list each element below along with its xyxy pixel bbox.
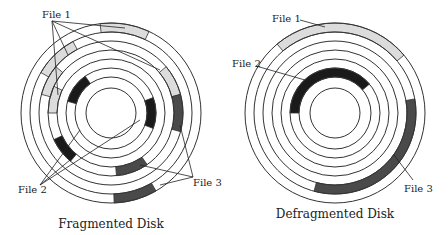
defragmented-caption: Defragmented Disk — [276, 207, 395, 221]
track-ring — [310, 88, 360, 138]
diagram-canvas: File 1File 2File 3Fragmented DiskFile 1F… — [0, 0, 448, 235]
track-ring — [263, 41, 407, 185]
file-label: File 1 — [42, 9, 71, 20]
track-ring — [39, 41, 183, 185]
leader-line — [394, 155, 413, 180]
leader-line — [256, 66, 305, 80]
track-ring — [290, 68, 380, 158]
track-ring — [86, 88, 136, 138]
fragmented-disk: File 1File 2File 3Fragmented Disk — [18, 9, 222, 231]
file-label: File 3 — [404, 183, 433, 194]
file-label: File 2 — [232, 58, 261, 69]
leader-line — [40, 120, 140, 185]
file1-segment — [100, 23, 149, 40]
leader-line — [160, 177, 193, 185]
fragmented-caption: Fragmented Disk — [58, 217, 164, 231]
defragmented-disk: File 1File 2File 3Defragmented Disk — [232, 13, 433, 221]
file-label: File 2 — [18, 184, 47, 195]
leader-line — [180, 125, 193, 177]
disk-fragmentation-diagram: File 1File 2File 3Fragmented DiskFile 1F… — [0, 0, 448, 235]
track-ring — [66, 68, 156, 158]
file2-segment — [68, 76, 91, 104]
file2-segment — [290, 68, 369, 113]
file-label: File 1 — [272, 13, 301, 24]
file-label: File 3 — [193, 177, 222, 188]
